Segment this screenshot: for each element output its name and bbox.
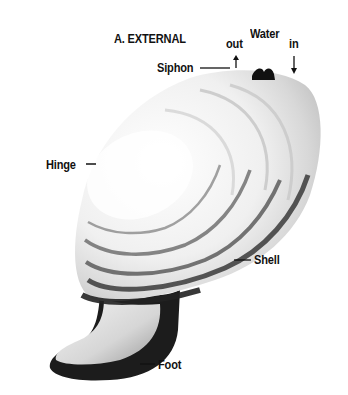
label-out: out (226, 36, 243, 51)
label-foot: Foot (158, 357, 181, 372)
shell (72, 70, 320, 302)
label-in: in (289, 36, 298, 51)
label-water: Water (250, 26, 279, 41)
in-arrow-icon (291, 56, 297, 74)
label-hinge: Hinge (46, 157, 76, 172)
label-siphon: Siphon (157, 60, 193, 75)
label-shell: Shell (254, 252, 280, 267)
siphon (252, 68, 275, 80)
figure-title: A. EXTERNAL (114, 31, 186, 46)
out-arrow-icon (233, 55, 239, 68)
